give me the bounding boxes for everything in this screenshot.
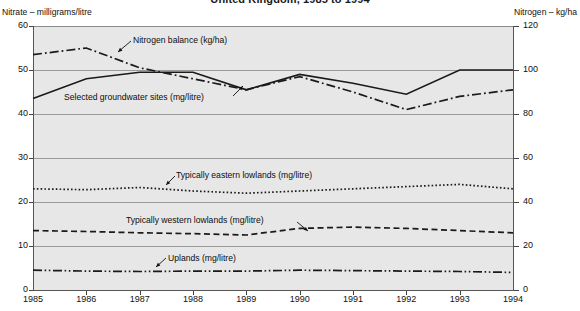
y-axis-left-tick-label: 50: [2, 64, 28, 74]
y-axis-left-caption: Nitrate – milligrams/litre: [2, 7, 92, 17]
y-axis-left-tick-mark: [29, 246, 33, 247]
y-axis-left-tick-label: 10: [2, 240, 28, 250]
x-axis-tick-label: 1993: [440, 294, 480, 304]
x-axis-tick-mark: [300, 291, 301, 295]
x-axis-tick-mark: [406, 291, 407, 295]
y-axis-left-tick-label: 30: [2, 152, 28, 162]
x-axis-tick-mark: [353, 291, 354, 295]
y-axis-left-tick-mark: [29, 202, 33, 203]
y-axis-left-tick-mark: [29, 114, 33, 115]
y-axis-left-tick-mark: [29, 70, 33, 71]
y-axis-right-tick-label: 60: [523, 152, 553, 162]
series-label-eastern-lowlands: Typically eastern lowlands (mg/litre): [176, 170, 312, 180]
plot-frame-left: [33, 26, 34, 291]
y-axis-right-tick-label: 0: [523, 284, 553, 294]
gridline: [33, 246, 514, 247]
plot-frame-top: [33, 26, 514, 27]
x-axis-tick-mark: [460, 291, 461, 295]
gridline: [33, 202, 514, 203]
x-axis-tick-mark: [140, 291, 141, 295]
y-axis-right-tick-label: 100: [523, 64, 553, 74]
x-axis-tick-label: 1994: [493, 294, 533, 304]
x-axis-tick-label: 1985: [13, 294, 53, 304]
y-axis-right-caption: Nitrogen – kg/ha: [514, 7, 577, 17]
y-axis-right-tick-mark: [514, 70, 519, 71]
plot-frame-bottom: [33, 290, 514, 291]
y-axis-right-tick-mark: [514, 114, 519, 115]
y-axis-right-tick-label: 80: [523, 108, 553, 118]
x-axis-tick-label: 1990: [280, 294, 320, 304]
y-axis-right-tick-mark: [514, 290, 519, 291]
y-axis-left-tick-mark: [29, 26, 33, 27]
x-axis-tick-label: 1986: [66, 294, 106, 304]
y-axis-right-tick-mark: [514, 26, 519, 27]
x-axis-tick-label: 1991: [333, 294, 373, 304]
y-axis-left-tick-label: 20: [2, 196, 28, 206]
y-axis-right-tick-mark: [514, 246, 519, 247]
series-label-uplands: Uplands (mg/litre): [168, 253, 236, 263]
x-axis-tick-mark: [193, 291, 194, 295]
y-axis-right-tick-mark: [514, 158, 519, 159]
x-axis-tick-label: 1988: [173, 294, 213, 304]
y-axis-right-tick-label: 20: [523, 240, 553, 250]
series-label-groundwater: Selected groundwater sites (mg/litre): [64, 92, 204, 102]
x-axis-tick-mark: [86, 291, 87, 295]
y-axis-right-tick-mark: [514, 202, 519, 203]
y-axis-left-tick-mark: [29, 158, 33, 159]
chart-title: United Kingdom, 1985 to 1994: [0, 0, 580, 5]
x-axis-tick-label: 1989: [226, 294, 266, 304]
y-axis-right-tick-label: 40: [523, 196, 553, 206]
series-label-western-lowlands: Typically western lowlands (mg/litre): [126, 215, 264, 225]
y-axis-left-tick-mark: [29, 290, 33, 291]
gridline: [33, 158, 514, 159]
y-axis-left-tick-label: 40: [2, 108, 28, 118]
x-axis-tick-label: 1987: [120, 294, 160, 304]
y-axis-left-tick-label: 60: [2, 20, 28, 30]
gridline: [33, 70, 514, 71]
x-axis-tick-label: 1992: [386, 294, 426, 304]
x-axis-tick-mark: [246, 291, 247, 295]
y-axis-right-tick-label: 120: [523, 20, 553, 30]
y-axis-left-tick-label: 0: [2, 284, 28, 294]
series-label-nitrogen-balance: Nitrogen balance (kg/ha): [133, 35, 227, 45]
gridline: [33, 114, 514, 115]
chart-root: United Kingdom, 1985 to 1994 Nitrate – m…: [0, 0, 580, 311]
